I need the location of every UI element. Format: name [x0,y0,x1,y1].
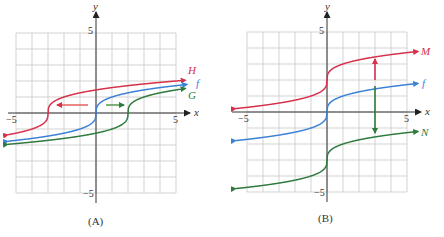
label-m: M [420,45,431,57]
caption-a: (A) [88,215,104,228]
tick-y-neg5-a: −5 [83,188,94,199]
label-h: H [187,64,197,76]
y-axis-label-b: y [324,0,330,12]
tick-x-neg5-b: −5 [238,113,249,124]
label-f-b: f [422,77,427,89]
x-axis-label-a: x [193,106,199,118]
y-axis-label-a: y [92,0,98,12]
tick-x-pos5-a: 5 [173,114,178,125]
tick-y-pos5-a: 5 [88,25,93,36]
tick-y-neg5-b: −5 [314,187,325,198]
caption-b: (B) [318,212,333,225]
panel-b: x y −5 5 5 −5 M f N (B) [232,0,431,225]
label-g: G [188,89,196,101]
label-n: N [420,126,429,138]
tick-x-neg5-a: −5 [6,114,17,125]
tick-x-pos5-b: 5 [404,113,409,124]
figure: x y −5 5 5 −5 H f G (A) x y −5 5 5 −5 M … [0,0,444,237]
x-axis-label-b: x [424,105,430,117]
panel-a: x y −5 5 5 −5 H f G (A) [6,0,201,228]
label-f-a: f [196,77,201,89]
tick-y-pos5-b: 5 [319,25,324,36]
